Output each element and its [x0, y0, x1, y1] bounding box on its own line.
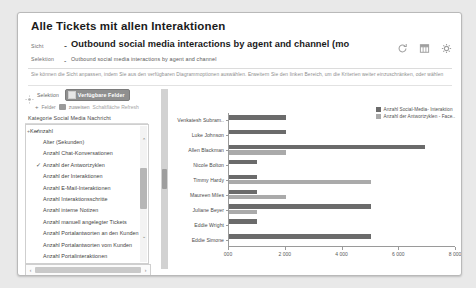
- chart-category-row: Venkatesh Subram..: [228, 113, 455, 128]
- tree-item-label: Anzahl der Interaktionen: [43, 173, 103, 179]
- tree-item[interactable]: +✓Kennzahl: [26, 125, 148, 136]
- y-axis-tick-label: Venkatesh Subram..: [177, 117, 224, 123]
- x-axis-tick-label: 2 000: [278, 251, 291, 257]
- checkmark-icon[interactable]: ✓: [35, 128, 40, 134]
- tree-item[interactable]: Anzahl Portalinteraktionen: [26, 250, 148, 261]
- chart-bar[interactable]: [229, 234, 371, 238]
- chart-bar[interactable]: [229, 204, 371, 208]
- chart-category-row: Luke Johnson: [228, 128, 455, 143]
- tree-item[interactable]: Anzahl Portalantworten vom Kunden: [26, 239, 148, 250]
- tree-item-label: Anzahl interne Notizen: [43, 207, 98, 213]
- criteria-panel: Selektion Verfügbare Felder + Felder zuw…: [22, 88, 159, 268]
- y-axis-tick-label: Eddie Wright: [194, 222, 224, 228]
- selection-toolbar-label: Selektion: [37, 92, 59, 98]
- chart-category-row: Allen Blackman: [228, 143, 455, 158]
- x-axis-tick-label: 8 000: [449, 251, 462, 257]
- tree-item[interactable]: Alter (Sekunden): [26, 136, 148, 147]
- sicht-label: Sicht: [31, 43, 44, 49]
- chart-plot: Venkatesh Subram..Luke JohnsonAllen Blac…: [228, 113, 455, 247]
- tree-scrollbar[interactable]: ⌃ ⌄: [140, 126, 147, 262]
- legend-label: Anzahl Social-Media- Interaktion: [384, 107, 453, 112]
- chart-category-row: Eddie Simone: [228, 232, 455, 247]
- chart-bar[interactable]: [229, 180, 371, 184]
- hint-text: Sie können die Sicht anpassen, indem Sie…: [31, 72, 452, 77]
- splitter-grip[interactable]: [162, 169, 167, 189]
- assign-fields-text-c: Schaltfläche Refresh: [93, 104, 139, 110]
- x-axis-tick-label: 000: [224, 251, 232, 257]
- hint-divider: [28, 85, 452, 86]
- chart-bar[interactable]: [229, 219, 257, 223]
- refresh-icon[interactable]: [397, 43, 408, 54]
- table-icon[interactable]: [419, 43, 430, 54]
- tree-item[interactable]: Anzahl E-Mail-Interaktionen: [26, 182, 148, 193]
- tree-item[interactable]: Anzahl der Interaktionen: [26, 171, 148, 182]
- tree-expander-icon[interactable]: +: [27, 128, 30, 134]
- tree-item[interactable]: Anzahl Interaktionsschritte: [26, 193, 148, 204]
- y-axis-tick-label: Eddie Simone: [192, 237, 224, 243]
- chart-bar[interactable]: [229, 210, 257, 214]
- tree-item[interactable]: Anzahl interne Notizen: [26, 205, 148, 216]
- hscroll-right-arrow[interactable]: ›: [142, 267, 149, 273]
- category-label: Kategorie Social Media Nachricht: [28, 115, 111, 121]
- selection-value[interactable]: Outbound social media interactions by ag…: [71, 56, 217, 62]
- tree-item-label: Anzahl Chat-Konversationen: [43, 150, 113, 156]
- chart-category-row: Timmy Hardy: [228, 173, 455, 188]
- chart-bar[interactable]: [229, 175, 257, 179]
- chart-bar[interactable]: [229, 195, 286, 199]
- legend-swatch: [376, 107, 381, 112]
- y-axis-tick-label: Luke Johnson: [192, 132, 224, 138]
- tree-item-label: Anzahl Portalinteraktionen: [43, 253, 107, 259]
- chart-bar[interactable]: [229, 160, 257, 164]
- tree-item-label: Kennzahl: [30, 128, 53, 134]
- chart-bar[interactable]: [229, 190, 257, 194]
- tree-list: +✓KennzahlAlter (Sekunden)Anzahl Chat-Ko…: [26, 125, 148, 264]
- panel-splitter[interactable]: [161, 89, 168, 269]
- assign-fields-text-a: Felder: [42, 104, 56, 110]
- tree-horizontal-scrollbar[interactable]: ‹ ›: [25, 264, 151, 276]
- hscroll-left-arrow[interactable]: ‹: [27, 267, 34, 273]
- y-axis-tick: [226, 120, 228, 121]
- plus-icon: +: [35, 104, 39, 110]
- x-axis-tick-label: 4 000: [335, 251, 348, 257]
- fields-icon: [68, 91, 76, 99]
- tree-scroll-thumb[interactable]: [140, 168, 147, 209]
- criteria-tree[interactable]: +✓KennzahlAlter (Sekunden)Anzahl Chat-Ko…: [25, 124, 149, 264]
- hscroll-thumb[interactable]: [35, 267, 141, 273]
- chart-category-row: Juliane Beyer: [228, 202, 455, 217]
- sicht-row: Sicht - Outbound social media interactio…: [31, 39, 451, 53]
- y-axis-tick: [226, 180, 228, 181]
- selection-row: Selektion - Outbound social media intera…: [31, 54, 451, 66]
- x-axis-ticks: 0002 0004 0006 0008 000: [228, 247, 455, 259]
- tree-item[interactable]: Anzahl Chat-Konversationen: [26, 148, 148, 159]
- sicht-value[interactable]: Outbound social media interactions by ag…: [71, 39, 349, 49]
- x-axis-tick: [228, 247, 229, 250]
- y-axis-tick-label: Juliane Beyer: [192, 207, 224, 213]
- y-axis-tick: [226, 225, 228, 226]
- chart-bar[interactable]: [229, 115, 286, 119]
- sicht-separator: -: [64, 41, 67, 51]
- tree-item[interactable]: Anzahl Portalantworten an den Kunden: [26, 228, 148, 239]
- legend-item[interactable]: Anzahl Social-Media- Interaktion: [376, 107, 455, 112]
- selection-toolbar: Selektion Verfügbare Felder: [25, 88, 130, 101]
- tree-item-label: Anzahl der Antwortzyklen: [43, 162, 105, 168]
- checkmark-icon[interactable]: ✓: [36, 162, 41, 168]
- tree-scroll-up[interactable]: ⌃: [140, 135, 147, 144]
- chart-bar[interactable]: [229, 130, 286, 134]
- available-fields-button[interactable]: Verfügbare Felder: [65, 89, 130, 101]
- y-axis-tick: [226, 135, 228, 136]
- tree-item[interactable]: ✓Anzahl der Antwortzyklen: [26, 159, 148, 170]
- chart-bar[interactable]: [229, 145, 425, 149]
- report-card: Alle Tickets mit allen Interaktionen Sic…: [17, 12, 462, 276]
- assign-fields-row[interactable]: + Felder zuweisen Schaltfläche Refresh: [35, 101, 139, 112]
- y-axis-tick: [226, 195, 228, 196]
- y-axis-tick-label: Allen Blackman: [188, 147, 224, 153]
- chart-bar[interactable]: [229, 150, 286, 154]
- tree-item-label: Anzahl Portalantworten an den Kunden: [43, 230, 139, 236]
- header-actions: [397, 43, 452, 54]
- y-axis-tick-label: Maureen Miles: [190, 192, 224, 198]
- tree-item-label: Anzahl Portalantworten vom Kunden: [43, 242, 132, 248]
- tree-item[interactable]: Anzahl manuell angelegter Tickets: [26, 216, 148, 227]
- y-axis-tick-label: Nicole Bolton: [193, 162, 224, 168]
- tree-scroll-down[interactable]: ⌄: [140, 231, 147, 240]
- gear-icon[interactable]: [441, 43, 452, 54]
